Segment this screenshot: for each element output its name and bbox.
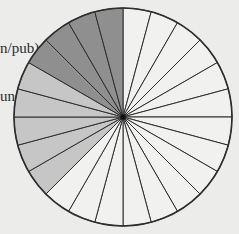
pie-chart: [0, 0, 239, 234]
pie-center-dot: [121, 115, 126, 120]
